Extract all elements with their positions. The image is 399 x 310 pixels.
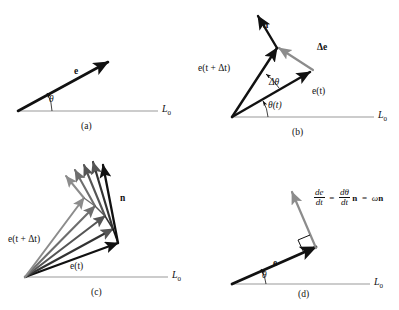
panel-b-label-vector-n: n [263, 21, 268, 31]
panel-c-label-vector-n: n [120, 194, 125, 204]
panel-b-label-delta-e: Δe [317, 43, 327, 53]
panel-b-caption: (b) [292, 128, 303, 138]
panel-b-label-e-t: e(t) [312, 87, 325, 97]
panel-b-label-delta-theta: Δθ [269, 78, 279, 88]
panel-b-vector-delta-e [279, 48, 313, 70]
panel-a-label-vector-e: e [74, 67, 78, 77]
panel-c-graphics [25, 162, 168, 277]
figure-container: e θ L0 (a) n Δe e(t + Δt) e(t) Δθ θ(t) L… [0, 0, 399, 310]
panel-a-caption: (a) [81, 122, 92, 132]
panel-c-label-e-t: e(t) [70, 262, 83, 272]
equation-lhs-fraction: de dt [314, 188, 325, 208]
panel-b-label-theta-t: θ(t) [268, 101, 282, 111]
panel-d-vector-de-dt [292, 192, 316, 248]
panel-a-label-axis-L0: L0 [162, 104, 171, 117]
panel-c-vector-e-sample-3 [25, 216, 105, 277]
equation-equals-second: = [360, 193, 370, 203]
panel-b-axis-subscript: 0 [384, 115, 388, 123]
panel-c-axis-subscript: 0 [178, 275, 182, 283]
figure-vector-graphics [0, 0, 399, 310]
equation-omega-vector-n: n [378, 193, 383, 203]
equation-rhs-vector-n: n [352, 193, 357, 203]
equation-rhs-denominator: dt [339, 198, 350, 207]
panel-d-label-vector-e: e [273, 259, 277, 269]
equation-equals-first: = [327, 193, 337, 203]
panel-c-caption: (c) [91, 288, 102, 298]
panel-a-vector-e [18, 62, 108, 111]
panel-b-label-e-t-plus-dt: e(t + Δt) [198, 64, 230, 74]
panel-c-label-axis-L0: L0 [172, 270, 181, 283]
panel-c-label-e-t-plus-dt: e(t + Δt) [8, 235, 40, 245]
panel-b-label-axis-L0: L0 [378, 110, 387, 123]
panel-b-graphics [232, 16, 374, 117]
panel-d-axis-subscript: 0 [380, 282, 384, 290]
panel-a-axis-subscript: 0 [168, 109, 172, 117]
panel-c-vector-e-t [25, 243, 118, 277]
panel-d-caption: (d) [298, 290, 309, 300]
panel-a-label-theta: θ [49, 95, 54, 105]
panel-c-vector-n-sample-4 [75, 170, 95, 206]
equation-lhs-denominator: dt [314, 198, 325, 207]
panel-a-graphics [18, 62, 158, 111]
panel-d-label-axis-L0: L0 [374, 277, 383, 290]
equation-rhs-fraction: dθ dt [339, 188, 350, 208]
panel-d-derivative-equation: de dt = dθ dt n = ωn [314, 188, 383, 208]
panel-d-label-theta: θ [262, 271, 267, 281]
